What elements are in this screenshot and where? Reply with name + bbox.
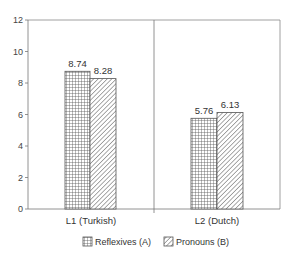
legend-label-reflexives: Reflexives (A) (95, 237, 151, 247)
y-axis-ticks: 0 2 4 6 8 10 12 (13, 15, 28, 214)
legend: Reflexives (A) Pronouns (B) (83, 237, 229, 247)
legend-label-pronouns: Pronouns (B) (176, 237, 229, 247)
y-tick-label: 8 (18, 78, 23, 88)
y-tick-label: 2 (18, 173, 23, 183)
y-tick-label: 12 (13, 15, 23, 25)
legend-swatch-grid-icon (83, 237, 92, 246)
bar-reflexives-l2 (191, 118, 217, 209)
category-label-l1: L1 (Turkish) (66, 215, 116, 226)
category-label-l2: L2 (Dutch) (195, 215, 239, 226)
bar-pronouns-l1 (90, 79, 116, 209)
value-label: 8.28 (94, 65, 113, 76)
y-tick-label: 6 (18, 110, 23, 120)
bar-reflexives-l1 (65, 71, 90, 209)
y-tick-label: 4 (18, 141, 23, 151)
bar-pronouns-l2 (217, 113, 243, 210)
bars-l2: 5.76 6.13 (191, 99, 243, 209)
bar-chart: 0 2 4 6 8 10 12 8.74 8.28 5.76 6.13 L1 (… (0, 0, 296, 261)
y-tick-label: 10 (13, 47, 23, 57)
value-label: 6.13 (221, 99, 240, 110)
value-label: 5.76 (195, 105, 214, 116)
legend-swatch-hatch-icon (164, 237, 173, 246)
value-label: 8.74 (68, 58, 87, 69)
y-tick-label: 0 (18, 204, 23, 214)
bars-l1: 8.74 8.28 (65, 58, 116, 209)
